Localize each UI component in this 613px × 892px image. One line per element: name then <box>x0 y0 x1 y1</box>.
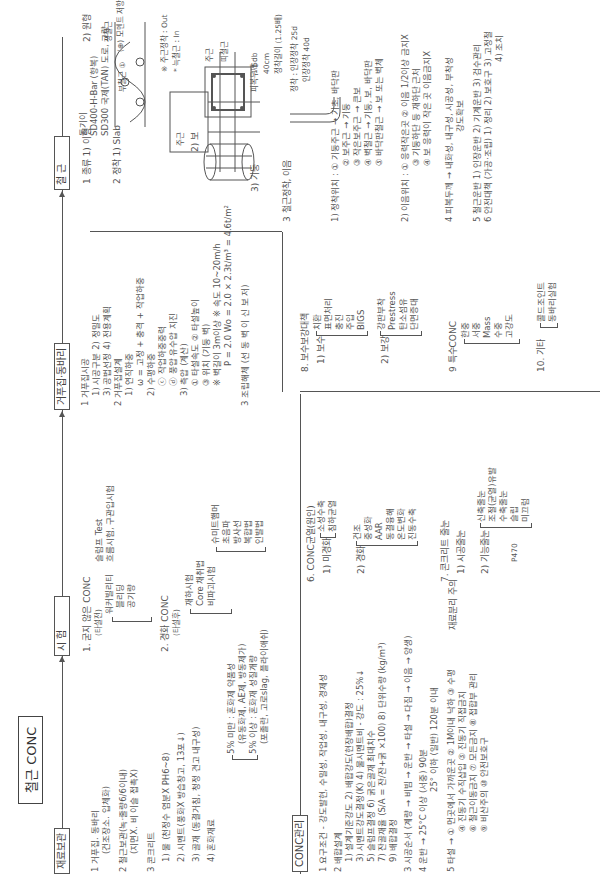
storage-list: 1 거푸집. 동바리 (건조장소. 입체화) 2 철근보관(녹·줄량6/6이내)… <box>90 726 217 872</box>
s8-label: 8. 보수보강대책 <box>300 313 311 372</box>
other-item: 콜드조인트 <box>536 282 547 322</box>
test-hard-items: 재하시험 Core 채취법 비파괴시험 <box>184 560 217 606</box>
bracket <box>112 617 152 622</box>
bracket <box>232 755 258 760</box>
formwork-item: 1) 연직하중 <box>124 205 135 406</box>
anchor-item: ④ 벽철근 → 기둥, 보, 바닥판 <box>363 58 374 222</box>
formwork-item: 1) 시공구분 2) 정밀도 <box>91 205 102 406</box>
s6-sub2: 2) 경화 <box>356 546 367 574</box>
s8-sub1-items: 치환 표면처리 충진 주입 BIGS <box>312 298 367 330</box>
formwork-item: ① 타설속도 ② 타설높이 <box>190 205 201 406</box>
formwork-item: P = 2.0 Wo = 2.0 × 2.3t/m³ = 4.6t/m² <box>223 205 234 406</box>
test-hard-label: 2. 경화 CONC <box>160 595 171 652</box>
rebar-label: 1.5db <box>250 53 259 74</box>
special-conc-item: Mass <box>482 314 493 338</box>
ndt-items: 슈미트햄머 초음파 방사선 복합법 인발법 <box>210 504 265 544</box>
repair-item: 충진 <box>334 298 345 330</box>
test-item: 공기량 <box>126 574 137 614</box>
conc-item: 5 타설 → ① 먼곳에서 가까운곳 ② 1M이내 낙하 ③ 수평 <box>446 635 457 872</box>
s7-sub2-items: 신축줄눈 조절(균열)유발 수축줄눈 슬립 미끄럼 <box>476 467 531 522</box>
joint-label: 재료분리 주의 <box>448 579 459 630</box>
defect-item: AAR <box>374 508 385 540</box>
flow-node-formwork: 거푸집·동바리 <box>54 343 70 410</box>
formwork-item: ⓓ 풍압 유수압 지진 <box>168 205 179 406</box>
rebar-label: 띠철근 <box>220 41 229 62</box>
rebar-type: 1 종류 1) 이형 <box>82 128 93 184</box>
s8-sub2-items: 강판부착 Prestress 탄소섬유 단면증대 <box>376 291 420 330</box>
s7-note: P470 <box>510 543 519 562</box>
rebar-anchor: 2 정착 1) Slab <box>112 125 123 184</box>
other-item: 동바리실험 <box>547 282 558 322</box>
storage-item: 2) 시멘트(풍화X 방습창고, 13포↓) <box>176 726 187 872</box>
s7-sub2: 2) 기능줄눈 <box>480 530 491 574</box>
special-conc-item: 고강도 <box>504 314 515 338</box>
storage-item: 3) 골재 (동결거침, 청정 견고 내구성) <box>191 726 202 872</box>
rebar-label: ※ 주근정착 : Out <box>160 14 169 72</box>
bracket <box>316 331 368 336</box>
s8-sub1: 1) 보수 <box>316 336 327 364</box>
repair-item: BIGS <box>356 298 367 330</box>
bracket <box>356 541 418 546</box>
defect-item: 온도변화 <box>396 508 407 540</box>
joint-item: 수축줄눈 <box>498 467 509 522</box>
test-item: 블리딩 <box>115 574 126 614</box>
admixture-item: 5% 이상 : 혼화재 성질개량 <box>248 629 259 754</box>
formwork-item: 2) 수평하중 <box>146 205 157 406</box>
reinforce-item: 탄소섬유 <box>398 291 409 330</box>
repair-item: 표면처리 <box>323 298 334 330</box>
conc-item: ④ 진동기 수직삽입 ⑤ 진동기 직접금지 <box>457 635 468 872</box>
s6-sub2-items: 건조 중성화 AAR 동결융해 온도변화 진동수축 <box>352 508 418 540</box>
anchor-location-list: 1) 정착위치 : ① 기둥주근 → 기초, 바닥판 ② 보주근 → 기둥 ③ … <box>330 58 385 222</box>
rebar-label: 주근 <box>205 48 214 62</box>
joint-item: 슬립 <box>509 467 520 522</box>
rebar-label: (⊕) 모멘트 저항 <box>116 0 125 52</box>
conc-item: 3 시공순서 (계량 → 비빔 → 운반 → 타설 → 다짐 → 이음 → 양생… <box>403 635 414 872</box>
ndt-item: 슈미트햄머 <box>210 504 221 544</box>
s7-sub1: 1) 시공줄눈 <box>456 530 467 574</box>
storage-item: 4) 혼화재료 <box>206 726 217 872</box>
anchor-item: ③ 작은보주근 → 큰보 <box>352 58 363 222</box>
ndt-item: 복합법 <box>243 504 254 544</box>
joint-item: 미끄럼 <box>520 467 531 522</box>
admixture-item: (포졸란, 고로slag, 플라이애쉬) <box>259 629 270 754</box>
formwork-item: 3) 공법선정 4) 전용계획 <box>102 205 113 406</box>
rebar-label: * 늑철근 : In <box>172 31 181 72</box>
test-fresh-sub: (타설전) <box>94 609 103 636</box>
rebar-extra-item: 6 안전대책 (가공·조립) 1) 정리 2) 보호구 3) 고정철 <box>483 31 494 222</box>
splice-item: ③ 기둥하단 등 재하단 근처 <box>411 34 422 222</box>
section-border <box>282 232 283 392</box>
repair-item: 주입 <box>345 298 356 330</box>
rebar-extra-item: 4 피복두께 → 내화성, 내구성, 시공성, 부착성 <box>444 31 455 222</box>
bracket <box>464 339 520 344</box>
bracket <box>216 547 266 552</box>
bracket <box>190 609 232 614</box>
defect-item: 침하균열 <box>327 500 338 532</box>
ndt-item: 인발법 <box>254 504 265 544</box>
conc-quality-list: 1 요구조건 - 강도발현, 수밀성, 작업성, 내구성, 경제성 2 배합설계… <box>318 635 490 872</box>
special-conc-item: 수중 <box>493 314 504 338</box>
flow-arrow <box>62 412 63 472</box>
rebar-label: 정착길이 (1.25배) <box>274 14 283 74</box>
storage-item: (지면X. 비 이슬 접촉X) <box>129 726 140 872</box>
storage-item: 1 거푸집. 동바리 <box>90 726 101 872</box>
reinforce-item: Prestress <box>387 291 398 330</box>
defect-item: 건조 <box>352 508 363 540</box>
rebar-label: 인장정착 40d <box>302 37 311 82</box>
reinforce-item: 단면증대 <box>409 291 420 330</box>
storage-item: 1) 물 (천정수 염분X PH6~8) <box>161 726 172 872</box>
ndt-item: 방사선 <box>232 504 243 544</box>
defect-item: 중성화 <box>363 508 374 540</box>
s9-items: 한중 서중 Mass 수중 고강도 <box>460 314 515 338</box>
defect-item: 소성수축 <box>316 500 327 532</box>
s8-sub2: 2) 보강 <box>380 336 391 364</box>
formwork-item: ③ 위치 (기둥 벽) <box>201 205 212 406</box>
rebar-label: 돌기이 <box>78 26 89 136</box>
test-item: Core 채취법 <box>195 560 206 606</box>
conc-item: 7) 잔골재율 (S/A = 잔/잔+굵 ×100) 8) 단위수량 (kg/m… <box>377 635 388 872</box>
formwork-item: 3) 측압 (계산) <box>179 205 190 406</box>
anchor-item: ⑤ 바닥판철근 → 보 또는 벽체 <box>374 58 385 222</box>
rebar-label: 정착 : 인장정착 25d <box>290 26 299 92</box>
test-item: 슬럼프 Test <box>94 485 105 562</box>
s6-sub1: 1) 미경화 <box>322 538 333 574</box>
splice-location-list: 2) 이음위치 : ① 응력작은곳 ② 이음 1/2이상 금지X ③ 기둥하단 … <box>400 34 433 222</box>
